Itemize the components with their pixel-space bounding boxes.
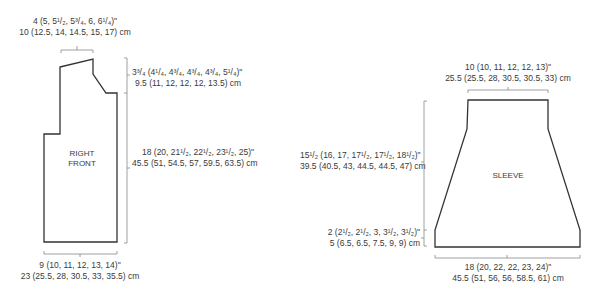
- front-shoulder-dimension-line: [61, 46, 93, 53]
- sleeve-bottom-width-in: 18 (20, 22, 22, 23, 24)": [430, 262, 586, 273]
- front-length-label: 18 (20, 21¹/₂, 22¹/₂, 23¹/₂, 25)" 45.5 (…: [132, 147, 258, 169]
- front-bottom-width-in: 9 (10, 11, 12, 13, 14)": [0, 260, 160, 271]
- front-length-in: 18 (20, 21¹/₂, 22¹/₂, 23¹/₂, 25)": [132, 147, 258, 158]
- sleeve-length-dimension-line: [421, 101, 427, 246]
- sleeve-top-dimension-line: [468, 87, 548, 93]
- front-shoulder-width-label: 4 (5, 5¹/₂, 5³/₄, 6, 6¹/₄)" 10 (12.5, 14…: [0, 16, 150, 38]
- front-armhole-depth-cm: 9.5 (11, 12, 12, 12, 13.5) cm: [132, 78, 242, 89]
- front-bottom-dimension-line: [44, 251, 117, 257]
- front-armhole-depth-in: 3³/₄ (4¹/₄, 4³/₄, 4³/₄, 4³/₄, 5¹/₄)": [132, 67, 242, 78]
- right-front-label-line1: RIGHT: [58, 149, 106, 159]
- front-bottom-width-label: 9 (10, 11, 12, 13, 14)" 23 (25.5, 28, 30…: [0, 260, 160, 282]
- sleeve-cuff-depth-in: 2 (2¹/₂, 2¹/₂, 3, 3¹/₂, 3¹/₂)": [300, 227, 420, 238]
- sleeve-top-width-cm: 25.5 (25.5, 28, 30.5, 30.5, 33) cm: [430, 73, 586, 84]
- sleeve-bottom-dimension-line: [435, 255, 580, 258]
- front-shoulder-width-in: 4 (5, 5¹/₂, 5³/₄, 6, 6¹/₄)": [0, 16, 150, 27]
- right-front-label-line2: FRONT: [58, 159, 106, 169]
- sleeve-length-in: 15¹/₂ (16, 17, 17¹/₂, 17¹/₂, 18¹/₂)": [300, 150, 420, 161]
- front-length-dimension-line: [124, 58, 130, 243]
- sleeve-bottom-width-cm: 45.5 (51, 56, 56, 58.5, 61) cm: [430, 273, 586, 284]
- sleeve-top-width-in: 10 (10, 11, 12, 12, 13)": [430, 62, 586, 73]
- sleeve-bottom-width-label: 18 (20, 22, 22, 23, 24)" 45.5 (51, 56, 5…: [430, 262, 586, 284]
- sleeve-length-label: 15¹/₂ (16, 17, 17¹/₂, 17¹/₂, 18¹/₂)" 39.…: [300, 150, 420, 172]
- sleeve-cuff-depth-label: 2 (2¹/₂, 2¹/₂, 3, 3¹/₂, 3¹/₂)" 5 (6.5, 6…: [300, 227, 420, 249]
- sleeve-top-width-label: 10 (10, 11, 12, 12, 13)" 25.5 (25.5, 28,…: [430, 62, 586, 84]
- sleeve-length-cm: 39.5 (40.5, 43, 44.5, 44.5, 47) cm: [300, 161, 420, 172]
- right-front-piece-label: RIGHT FRONT: [58, 149, 106, 169]
- front-shoulder-width-cm: 10 (12.5, 14, 14.5, 15, 17) cm: [0, 27, 150, 38]
- front-bottom-width-cm: 23 (25.5, 28, 30.5, 33, 35.5) cm: [0, 271, 160, 282]
- front-armhole-depth-label: 3³/₄ (4¹/₄, 4³/₄, 4³/₄, 4³/₄, 5¹/₄)" 9.5…: [132, 67, 242, 89]
- sleeve-piece-label: SLEEVE: [484, 171, 532, 181]
- sleeve-cuff-depth-cm: 5 (6.5, 6.5, 7.5, 9, 9) cm: [300, 238, 420, 249]
- front-length-cm: 45.5 (51, 54.5, 57, 59.5, 63.5) cm: [132, 158, 258, 169]
